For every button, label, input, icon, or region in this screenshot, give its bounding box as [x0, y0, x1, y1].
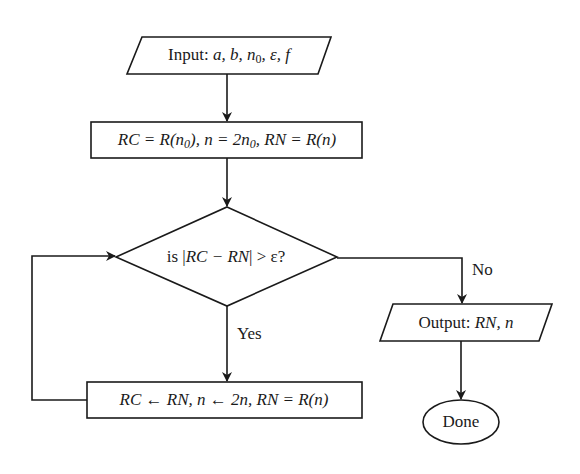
output-vars: RN, n — [475, 313, 514, 332]
output-prefix: Output: — [419, 313, 471, 332]
input-node-label: Input: a, b, n0, ε, f — [168, 45, 290, 65]
done-node-label: Done — [443, 412, 480, 432]
input-prefix: Input: — [168, 45, 209, 64]
flowchart-canvas: Input: a, b, n0, ε, f RC = R(n0), n = 2n… — [0, 0, 580, 474]
arrow-decision-no — [337, 258, 462, 303]
decision-node-label: is |RC − RN| > ε? — [167, 247, 286, 267]
init-part-3: , RN = R(n) — [256, 130, 336, 149]
output-node-label: Output: RN, n — [419, 313, 514, 333]
input-vars-rest: , ε, f — [261, 45, 289, 64]
input-vars: a, b, n — [213, 45, 256, 64]
init-node-label: RC = R(n0), n = 2n0, RN = R(n) — [118, 130, 336, 150]
init-part-2: ), n = 2n — [190, 130, 250, 149]
arrow-loop-back — [32, 256, 115, 400]
init-part-1: RC = R(n — [118, 130, 184, 149]
yes-edge-label: Yes — [237, 324, 262, 344]
update-node-label: RC ← RN, n ← 2n, RN = R(n) — [120, 390, 329, 410]
decision-prefix: is | — [167, 247, 186, 266]
no-edge-label: No — [472, 260, 493, 280]
decision-expression: RC − RN — [186, 247, 249, 266]
decision-suffix: | > ε? — [249, 247, 285, 266]
